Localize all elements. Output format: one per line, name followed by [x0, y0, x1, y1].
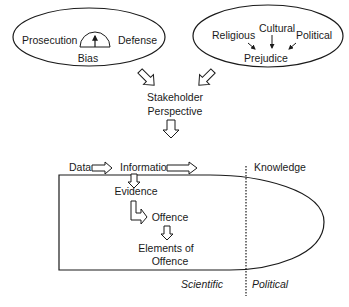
prejudice-ellipse-group: Religious Cultural Political Prejudice [193, 5, 343, 67]
offence-label: Offence [152, 211, 189, 223]
religious-arrow-icon [248, 43, 255, 49]
prejudice-to-stakeholder-arrow-icon [194, 66, 218, 90]
knowledge-label: Knowledge [254, 161, 306, 173]
cultural-label: Cultural [259, 22, 295, 34]
data-to-information-arrow-icon [92, 162, 112, 174]
religious-label: Religious [212, 29, 255, 41]
knowledge-domain-shape [59, 175, 324, 270]
defense-label: Defense [118, 34, 157, 46]
stakeholder-label-line2: Perspective [148, 105, 203, 117]
evidence-to-offence-arrow-icon [131, 201, 147, 224]
evidence-label: Evidence [114, 185, 157, 197]
scientific-label: Scientific [181, 278, 224, 290]
stakeholder-label-line1: Stakeholder [147, 91, 204, 103]
elements-label-line1: Elements of [138, 242, 194, 254]
elements-label-line2: Offence [152, 255, 189, 267]
bias-label: Bias [78, 52, 98, 64]
prejudice-label: Prejudice [244, 52, 288, 64]
offence-to-elements-arrow-icon [161, 226, 173, 240]
stakeholder-down-arrow-icon [163, 120, 179, 138]
political-source-label: Political [296, 29, 332, 41]
data-label: Data [69, 161, 91, 173]
bias-ellipse-group: Prosecution Defense Bias [13, 8, 165, 66]
gauge-icon [80, 32, 110, 47]
political-arrow-icon [289, 43, 296, 49]
information-label: Information [120, 161, 173, 173]
diagram-canvas: Prosecution Defense Bias Religious Cultu… [0, 0, 349, 307]
political-label: Political [252, 278, 289, 290]
bias-to-stakeholder-arrow-icon [135, 66, 159, 90]
prosecution-label: Prosecution [22, 34, 78, 46]
